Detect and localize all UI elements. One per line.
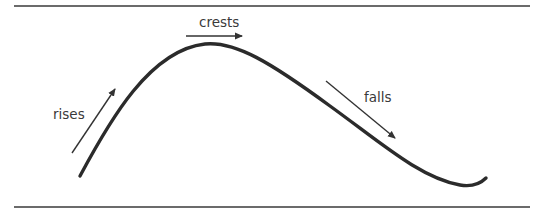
wave-curve bbox=[80, 44, 486, 186]
rises-label: rises bbox=[53, 106, 85, 122]
wave-phase-diagram: rises crests falls bbox=[0, 0, 543, 213]
phase-rises: rises bbox=[53, 89, 115, 153]
phase-crests: crests bbox=[186, 14, 242, 36]
crests-label: crests bbox=[199, 14, 239, 30]
falls-label: falls bbox=[364, 89, 392, 105]
